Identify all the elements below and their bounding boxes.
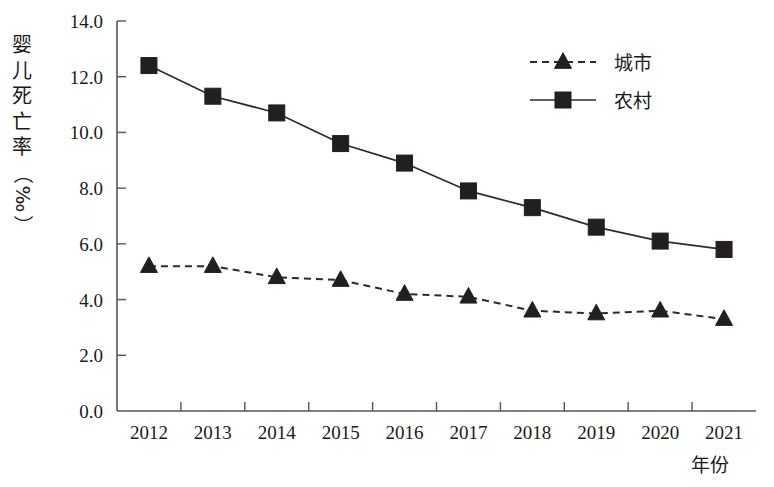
legend-entry[interactable]: 城市 bbox=[530, 52, 652, 74]
data-point-marker-square bbox=[205, 88, 221, 104]
y-axis-title-glyph: （ bbox=[11, 164, 35, 184]
x-tick-label: 2013 bbox=[194, 422, 232, 443]
data-point-marker-square bbox=[524, 200, 540, 216]
x-tick-label: 2020 bbox=[641, 422, 679, 443]
x-tick-label: 2018 bbox=[513, 422, 551, 443]
y-axis-title-glyph: 死 bbox=[12, 84, 32, 108]
x-tick-label: 2016 bbox=[386, 422, 424, 443]
y-tick-label: 12.0 bbox=[70, 67, 103, 88]
data-point-marker-triangle bbox=[204, 257, 221, 273]
chart-canvas: 婴儿死亡率（‰） 0.02.04.06.08.010.012.014.0 201… bbox=[0, 0, 774, 487]
data-point-marker-triangle bbox=[460, 287, 477, 303]
x-tick-label: 2015 bbox=[322, 422, 360, 443]
x-tick-label: 2021 bbox=[705, 422, 743, 443]
series-urban bbox=[140, 257, 732, 326]
y-tick-label: 14.0 bbox=[70, 11, 103, 32]
y-tick-label: 8.0 bbox=[79, 178, 103, 199]
y-axis-title-glyph: 儿 bbox=[12, 59, 32, 83]
data-point-marker-triangle bbox=[140, 257, 157, 273]
data-point-marker-square bbox=[652, 233, 668, 249]
data-point-marker-square bbox=[555, 92, 571, 108]
data-point-marker-square bbox=[460, 183, 476, 199]
y-axis-title: 婴儿死亡率（‰） bbox=[11, 33, 35, 235]
infant-mortality-line-chart: 婴儿死亡率（‰） 0.02.04.06.08.010.012.014.0 201… bbox=[0, 0, 774, 487]
y-tick-label: 4.0 bbox=[79, 290, 103, 311]
legend-label: 农村 bbox=[614, 90, 652, 112]
y-axis-title-glyph: 率 bbox=[12, 135, 32, 159]
y-axis-tick-labels: 0.02.04.06.08.010.012.014.0 bbox=[70, 11, 103, 422]
series-rural bbox=[141, 58, 732, 258]
y-tick-label: 2.0 bbox=[79, 345, 103, 366]
y-axis-title-glyph: ‰ bbox=[11, 186, 35, 213]
x-axis-tick-labels: 2012201320142015201620172018201920202021 bbox=[130, 422, 743, 443]
legend-label: 城市 bbox=[614, 52, 652, 74]
data-point-marker-triangle bbox=[524, 301, 541, 317]
y-axis-title-glyph: 亡 bbox=[12, 110, 32, 134]
y-tick-label: 6.0 bbox=[79, 234, 103, 255]
data-point-marker-triangle bbox=[588, 304, 605, 320]
chart-legend: 城市农村 bbox=[530, 52, 652, 112]
x-tick-label: 2014 bbox=[258, 422, 297, 443]
data-point-marker-square bbox=[269, 105, 285, 121]
data-point-marker-triangle bbox=[332, 271, 349, 287]
data-point-marker-triangle bbox=[555, 53, 572, 69]
x-axis-title: 年份 bbox=[691, 454, 729, 476]
y-tick-label: 0.0 bbox=[79, 401, 103, 422]
data-point-marker-square bbox=[141, 58, 157, 74]
data-point-marker-square bbox=[333, 136, 349, 152]
y-axis-title-glyph: 婴 bbox=[12, 33, 32, 57]
data-point-marker-triangle bbox=[396, 285, 413, 301]
x-axis-tick-marks bbox=[181, 402, 692, 411]
data-point-marker-triangle bbox=[652, 301, 669, 317]
y-tick-label: 10.0 bbox=[70, 122, 103, 143]
series-line bbox=[149, 266, 724, 319]
legend-entry[interactable]: 农村 bbox=[530, 90, 652, 112]
y-axis-title-glyph: ） bbox=[11, 215, 35, 235]
x-tick-label: 2012 bbox=[130, 422, 168, 443]
data-point-marker-triangle bbox=[716, 310, 733, 326]
data-point-marker-square bbox=[397, 155, 413, 171]
data-point-marker-square bbox=[588, 219, 604, 235]
data-point-marker-square bbox=[716, 241, 732, 257]
x-tick-label: 2017 bbox=[449, 422, 487, 443]
y-axis-tick-marks bbox=[117, 21, 126, 355]
x-tick-label: 2019 bbox=[577, 422, 615, 443]
